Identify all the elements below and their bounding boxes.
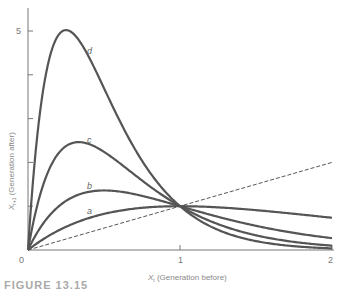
x-tick-label-2: 2 [328, 255, 333, 265]
y-axis-title-text: (Generation after) [7, 132, 16, 198]
curve-a [28, 206, 332, 250]
x-axis-title-text: (Generation before) [155, 273, 227, 282]
curves [28, 30, 332, 250]
replacement-line [28, 162, 332, 250]
y-axis-title: Xt+1 (Generation after) [7, 132, 17, 211]
curve-label-c: c [87, 135, 92, 145]
curve-label-b: b [87, 181, 92, 191]
curve-label-d: d [87, 46, 93, 56]
x-tick-label-1: 1 [178, 255, 183, 265]
curve-d [28, 30, 332, 250]
y-tick-label-5: 5 [16, 26, 21, 36]
x-axis-title: Xt (Generation before) [147, 273, 227, 283]
curve-label-a: a [87, 206, 92, 216]
origin-label: 0 [19, 255, 24, 265]
figure-caption: FIGURE 13.15 [4, 280, 88, 291]
